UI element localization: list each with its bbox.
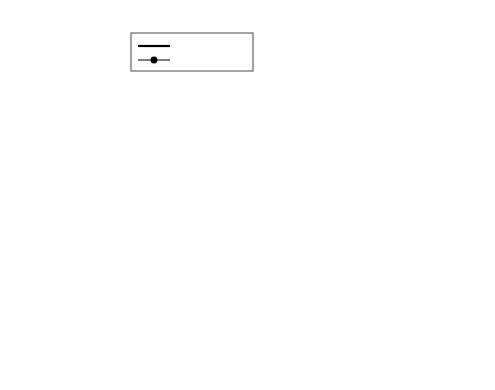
chart-canvas — [0, 0, 495, 390]
figure-sediment-storage — [0, 0, 495, 390]
legend-swatch-sediment-load-marker — [151, 57, 158, 64]
chart-legend[interactable] — [131, 33, 253, 71]
legend-box — [131, 33, 253, 71]
